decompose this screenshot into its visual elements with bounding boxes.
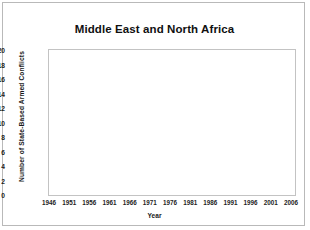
y-axis-label: Number of State-Based Armed Conflicts — [18, 37, 25, 197]
y-tick-label: 0 — [0, 192, 5, 199]
x-axis-label: Year — [3, 212, 306, 219]
y-tick-label: 20 — [0, 47, 5, 54]
y-tick-label: 14 — [0, 90, 5, 97]
y-tick-label: 4 — [0, 163, 5, 170]
plot-area-wrapper — [48, 49, 296, 196]
x-tick-label: 2006 — [276, 199, 306, 206]
y-tick-label: 18 — [0, 61, 5, 68]
chart-title: Middle East and North Africa — [3, 23, 306, 35]
plot-area — [48, 49, 296, 196]
y-tick-label: 6 — [0, 148, 5, 155]
y-tick-label: 10 — [0, 119, 5, 126]
y-tick-label: 2 — [0, 177, 5, 184]
y-tick-label: 8 — [0, 134, 5, 141]
y-tick-label: 16 — [0, 76, 5, 83]
chart-frame: Middle East and North Africa Number of S… — [2, 2, 305, 226]
y-tick-label: 12 — [0, 105, 5, 112]
